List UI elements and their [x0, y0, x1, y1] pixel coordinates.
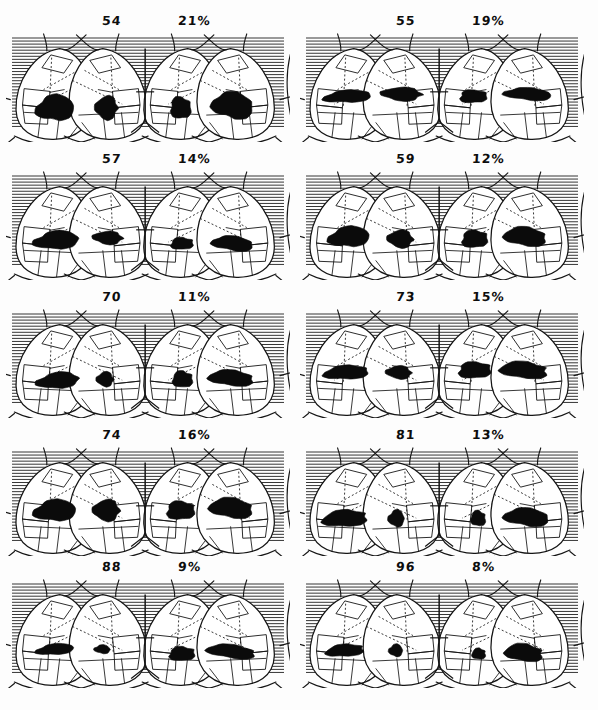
lung-scan-diagram: [6, 28, 290, 142]
lung-scan-diagram: [6, 166, 290, 280]
case-number-label: 81: [395, 427, 415, 442]
lung-scan-diagram: [300, 442, 584, 556]
percent-label: 15%: [471, 289, 505, 304]
scan-panel: 889%: [6, 560, 290, 688]
scan-panel: 5714%: [6, 152, 290, 280]
lung-scan-diagram: [6, 442, 290, 556]
scan-panel: 968%: [300, 560, 584, 688]
scan-image: [6, 166, 290, 280]
percent-label: 12%: [471, 151, 505, 166]
scan-panel: 7011%: [6, 290, 290, 418]
percent-label: 16%: [177, 427, 211, 442]
figure-sheet: 5421%5519%5714%5912%7011%7315%7416%8113%…: [0, 0, 598, 710]
percent-label: 9%: [177, 559, 201, 574]
case-number-label: 73: [395, 289, 415, 304]
lung-scan-diagram: [300, 304, 584, 418]
lung-scan-diagram: [300, 166, 584, 280]
lung-scan-diagram: [300, 574, 584, 688]
percent-label: 19%: [471, 13, 505, 28]
scan-image: [300, 304, 584, 418]
scan-panel: 5519%: [300, 14, 584, 142]
case-number-label: 57: [101, 151, 121, 166]
scan-image: [300, 166, 584, 280]
percent-label: 13%: [471, 427, 505, 442]
percent-label: 11%: [177, 289, 211, 304]
scan-panel: 8113%: [300, 428, 584, 556]
case-number-label: 54: [101, 13, 121, 28]
percent-label: 21%: [177, 13, 211, 28]
case-number-label: 59: [395, 151, 415, 166]
scan-image: [300, 442, 584, 556]
scan-panel: 7416%: [6, 428, 290, 556]
scan-image: [6, 442, 290, 556]
scan-image: [300, 28, 584, 142]
case-number-label: 70: [101, 289, 121, 304]
scan-image: [6, 574, 290, 688]
percent-label: 14%: [177, 151, 211, 166]
case-number-label: 55: [395, 13, 415, 28]
scan-image: [6, 304, 290, 418]
scan-image: [300, 574, 584, 688]
lung-scan-diagram: [300, 28, 584, 142]
case-number-label: 88: [101, 559, 121, 574]
case-number-label: 74: [101, 427, 121, 442]
lung-scan-diagram: [6, 574, 290, 688]
scan-image: [6, 28, 290, 142]
case-number-label: 96: [395, 559, 415, 574]
scan-panel: 5912%: [300, 152, 584, 280]
percent-label: 8%: [471, 559, 495, 574]
lung-scan-diagram: [6, 304, 290, 418]
scan-panel: 7315%: [300, 290, 584, 418]
scan-panel: 5421%: [6, 14, 290, 142]
